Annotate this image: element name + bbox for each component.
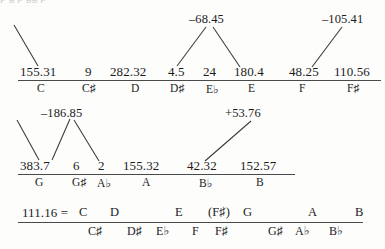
value-row1-4: 24 — [203, 64, 216, 80]
note-row1-2: D — [131, 82, 139, 94]
leader-row1-d — [312, 27, 342, 67]
value-row1-0: 155.31 — [20, 64, 56, 80]
note-row1-0: C — [37, 82, 45, 94]
leader-row1-a — [14, 25, 38, 66]
note-row3-lower-1: D♯ — [127, 224, 142, 239]
note-row3-upper-1: D — [110, 205, 119, 220]
note-row3-upper-3: (F♯) — [208, 205, 230, 220]
value-row1-3: 4.5 — [168, 64, 185, 80]
annotation-row2-1: –186.85 — [41, 106, 82, 121]
note-row2-2: A♭ — [97, 176, 111, 190]
note-row3-lower-2: E♭ — [156, 224, 169, 239]
note-row3-lower-7: B♭ — [329, 224, 343, 239]
note-row2-1: G♯ — [72, 176, 86, 188]
value-row2-3: 155.32 — [123, 158, 159, 174]
note-row2-5: B — [256, 176, 264, 188]
value-row2-5: 152.57 — [240, 158, 276, 174]
note-row3-lower-3: F — [192, 224, 199, 239]
note-row3-upper-4: G — [243, 205, 252, 220]
annotation-row1-1: –68.45 — [189, 12, 224, 27]
rule-row3 — [18, 222, 363, 223]
note-row1-4: E♭ — [206, 82, 219, 96]
leader-row1-c — [213, 27, 240, 67]
rule-row1 — [18, 80, 381, 81]
note-row3-lower-0: C♯ — [88, 224, 102, 239]
value-row1-1: 9 — [85, 64, 92, 80]
cropped-text-fragment: p g p gg p — [0, 0, 46, 3]
note-row1-7: F♯ — [347, 82, 359, 94]
value-row2-0: 383.7 — [20, 158, 50, 174]
value-row1-7: 110.56 — [334, 64, 370, 80]
note-row1-6: F — [299, 82, 306, 94]
value-row1-5: 180.4 — [234, 64, 264, 80]
note-row3-lower-6: A♭ — [295, 224, 310, 239]
value-row1-6: 48.25 — [289, 64, 319, 80]
rule-row2 — [18, 174, 295, 175]
note-row3-upper-0: C — [79, 205, 87, 220]
value-row1-2: 282.32 — [110, 64, 146, 80]
note-row3-lower-5: G♯ — [268, 224, 283, 239]
annotation-row2-2: +53.76 — [225, 106, 261, 121]
note-row3-lower-4: F♯ — [215, 224, 228, 239]
note-row1-3: D♯ — [170, 82, 184, 94]
leader-row2-b — [52, 119, 70, 160]
value-row2-4: 42.32 — [187, 158, 217, 174]
figure-page: p g p gg p –68.45 –105.41 155.31 9 282.3… — [0, 0, 385, 249]
note-row2-4: B♭ — [199, 176, 212, 190]
leader-row1-b — [177, 27, 206, 66]
note-row3-upper-6: B — [355, 205, 363, 220]
cropped-text-above: p g p gg p — [0, 0, 385, 7]
note-row3-upper-2: E — [175, 205, 183, 220]
value-row2-2: 2 — [98, 158, 105, 174]
leader-row2-c — [74, 120, 99, 161]
note-row1-1: C♯ — [82, 82, 96, 94]
leader-row2-d — [205, 121, 251, 161]
note-row3-upper-5: A — [308, 205, 317, 220]
leader-row2-a — [17, 120, 39, 160]
note-row2-0: G — [35, 176, 43, 188]
note-row2-3: A — [142, 176, 150, 188]
value-row2-1: 6 — [73, 158, 80, 174]
annotation-row1-2: –105.41 — [322, 12, 363, 27]
value-row3-lead: 111.16 = — [22, 205, 68, 221]
note-row1-5: E — [248, 82, 255, 94]
